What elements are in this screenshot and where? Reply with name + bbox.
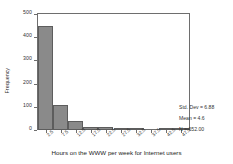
y-tick-label: 200 xyxy=(23,80,32,85)
statistics-annotation: Std. Dev = 6.88 Mean = 4.6 N = 652.00 xyxy=(179,102,233,135)
y-tick-mark xyxy=(34,14,37,15)
histogram-bar xyxy=(53,105,68,130)
y-tick-label: 100 xyxy=(23,103,32,108)
y-tick-label: 400 xyxy=(23,33,32,38)
histogram-bar xyxy=(38,26,53,130)
y-tick-label: 300 xyxy=(23,56,32,61)
mean-label: Mean = 4.6 xyxy=(179,113,233,124)
y-tick-mark xyxy=(34,107,37,108)
y-tick-mark xyxy=(34,60,37,61)
y-axis-title: Frequency xyxy=(5,52,10,110)
y-tick-mark xyxy=(34,84,37,85)
x-axis-title: Hours on the WWW per week for Internet u… xyxy=(0,150,233,156)
x-tick-label: 7.5 xyxy=(61,129,69,137)
n-label: N = 652.00 xyxy=(179,124,233,135)
y-tick-mark xyxy=(34,37,37,38)
y-tick-label: 0 xyxy=(29,126,32,131)
std-dev-label: Std. Dev = 6.88 xyxy=(179,102,233,113)
x-tick-label: 2.5 xyxy=(46,129,54,137)
bar-series xyxy=(38,14,189,130)
y-tick-label: 500 xyxy=(23,10,32,15)
histogram-figure: 0100200300400500 Frequency 2.57.512.517.… xyxy=(0,0,233,164)
x-axis: 2.57.512.517.522.527.532.537.542.547.5 xyxy=(37,130,191,150)
